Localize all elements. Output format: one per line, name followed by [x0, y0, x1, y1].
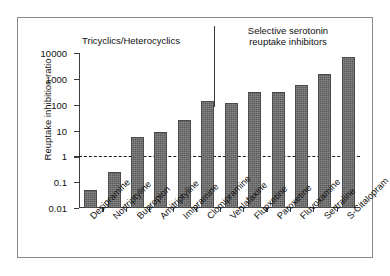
y-tick-label: 10 [56, 125, 67, 136]
y-tick-label: 100 [51, 99, 67, 110]
bar-slot [266, 53, 289, 208]
bar [342, 57, 355, 208]
plot-area: 1000010001001010.10.01 DesipramineNortri… [79, 53, 360, 208]
y-tick-label: 0.1 [54, 177, 67, 188]
y-tick-label: 10000 [41, 48, 67, 59]
figure-frame: Tricyclics/Heterocyclics Selective serot… [17, 17, 373, 258]
y-tick: 0.01 [74, 208, 79, 209]
y-tick-label: 1 [62, 151, 67, 162]
bar-slot [79, 53, 102, 208]
bar-slot [290, 53, 313, 208]
group-label-ssri: Selective serotonin reuptake inhibitors [218, 25, 358, 47]
group-label-tricyclics: Tricyclics/Heterocyclics [56, 35, 206, 46]
y-tick-label: 1000 [46, 73, 67, 84]
y-tick-label: 0.01 [49, 203, 68, 214]
